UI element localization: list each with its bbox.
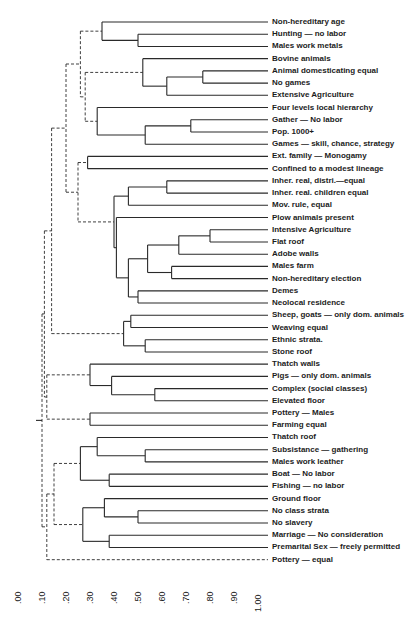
leaf-label: Demes	[272, 286, 298, 296]
leaf-label: Stone roof	[272, 347, 312, 357]
leaf-label: Ground floor	[272, 494, 321, 504]
leaf-label: Farming equal	[272, 420, 327, 430]
axis-tick-label: .30	[85, 591, 95, 604]
leaf-label: Pottery — equal	[272, 555, 333, 565]
leaf-label: Four levels local hierarchy	[272, 103, 373, 113]
leaf-label: Hunting — no labor	[272, 29, 346, 39]
leaf-label: Animal domesticating equal	[272, 66, 378, 76]
axis-tick-label: .90	[229, 591, 239, 604]
leaf-label: Non-hereditary election	[272, 274, 361, 284]
leaf-label: Games — skill, chance, strategy	[272, 139, 394, 149]
axis-tick-label: .20	[61, 591, 71, 604]
leaf-label: Pigs — only dom. animals	[272, 371, 371, 381]
leaf-label: Plow animals present	[272, 213, 354, 223]
axis-tick-label: .60	[157, 591, 167, 604]
leaf-label: No class strata	[272, 506, 329, 516]
leaf-label: Gather — No labor	[272, 115, 343, 125]
axis-tick-label: .70	[181, 591, 191, 604]
leaf-label: Elevated floor	[272, 396, 325, 406]
leaf-label: Weaving equal	[272, 323, 328, 333]
leaf-label: Adobe walls	[272, 249, 319, 259]
leaf-label: Intensive Agriculture	[272, 225, 351, 235]
leaf-label: Inher. real, distri.—equal	[272, 176, 365, 186]
leaf-label: Non-hereditary age	[272, 17, 345, 27]
leaf-label: Thatch roof	[272, 432, 316, 442]
leaf-label: Males work leather	[272, 457, 344, 467]
leaf-label: Males farm	[272, 261, 314, 271]
leaf-label: Marriage — No consideration	[272, 530, 383, 540]
leaf-label: Complex (social classes)	[272, 384, 367, 394]
axis-tick-label: 1.00	[253, 594, 263, 612]
leaf-label: Fishing — no labor	[272, 481, 344, 491]
leaf-label: Premarital Sex — freely permitted	[272, 542, 400, 552]
leaf-label: Males work metals	[272, 41, 343, 51]
leaf-label: Subsistance — gathering	[272, 445, 368, 455]
leaf-label: Flat roof	[272, 237, 304, 247]
axis-tick-label: .50	[133, 591, 143, 604]
axis-tick-label: .10	[37, 591, 47, 604]
leaf-label: Sheep, goats — only dom. animals	[272, 310, 404, 320]
leaf-label: No slavery	[272, 518, 312, 528]
leaf-label: No games	[272, 78, 310, 88]
leaf-label: Neolocal residence	[272, 298, 345, 308]
leaf-label: Bovine animals	[272, 54, 331, 64]
leaf-label: Pottery — Males	[272, 408, 334, 418]
leaf-label: Ext. family — Monogamy	[272, 151, 367, 161]
leaf-label: Extensive Agriculture	[272, 90, 354, 100]
axis-tick-label: .00	[13, 591, 23, 604]
leaf-label: Inher. real. children equal	[272, 188, 368, 198]
axis-tick-label: .80	[205, 591, 215, 604]
leaf-label: Pop. 1000+	[272, 127, 314, 137]
leaf-label: Ethnic strata.	[272, 335, 323, 345]
leaf-label: Mov. rule, equal	[272, 200, 332, 210]
leaf-label: Thatch walls	[272, 359, 320, 369]
leaf-label: Confined to a modest lineage	[272, 164, 384, 174]
leaf-label: Boat — No labor	[272, 469, 335, 479]
axis-tick-label: .40	[109, 591, 119, 604]
